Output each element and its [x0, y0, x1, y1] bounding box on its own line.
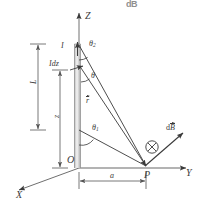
theta1-subscript: 1: [96, 126, 99, 132]
y-axis-label: Y: [186, 168, 192, 178]
theta2-label: θ2: [89, 40, 96, 49]
r-vector-line: [81, 68, 146, 166]
distance-dimension-label: a: [110, 172, 114, 180]
theta-mid-label: θ: [91, 72, 95, 80]
current-carrying-wire: [75, 44, 81, 168]
axis-group: [19, 13, 186, 190]
origin-label: O: [67, 155, 74, 165]
x-axis-line: [19, 168, 79, 190]
current-label: I: [61, 42, 64, 50]
r-vector-overbar: [86, 96, 89, 97]
theta1-arc: [79, 140, 93, 146]
z-axis-label: Z: [85, 11, 91, 21]
figure-canvas: [0, 0, 198, 201]
dB-vector-label: dB: [166, 124, 175, 132]
current-element-suffix: dz: [52, 59, 59, 68]
into-page-symbol-group: [146, 141, 158, 153]
theta1-label: θ1: [92, 124, 99, 133]
field-point-label: P: [144, 170, 150, 180]
theta2-subscript: 2: [93, 42, 96, 48]
height-dimension-group: [52, 70, 68, 168]
ray-group: [79, 45, 146, 166]
dB-vector-overbar: [170, 123, 175, 124]
r-vector-label: r: [86, 97, 89, 105]
theta-arc: [81, 79, 90, 82]
height-dimension-label: z: [53, 115, 61, 118]
current-element-label: Idz: [49, 60, 59, 68]
r-vector-base: r: [86, 96, 89, 105]
dB-vector-base: B: [170, 123, 175, 132]
length-dimension-label: L: [30, 80, 38, 84]
x-axis-label: X: [16, 190, 22, 200]
physics-figure: dB: [0, 0, 198, 201]
length-dimension-group: [30, 44, 46, 130]
